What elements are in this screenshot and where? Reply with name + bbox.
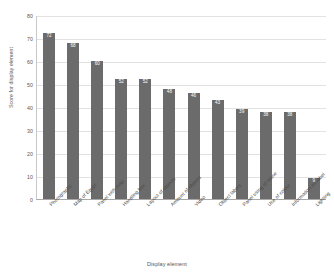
- y-axis-tick-label: 70: [27, 36, 33, 42]
- chart-page: Score for display element 01020304050607…: [0, 0, 334, 280]
- y-axis-tick-label: 50: [27, 82, 33, 88]
- x-axis-title: Display element: [0, 261, 334, 267]
- bar-slot: 39: [230, 16, 254, 199]
- bar-value-label: 39: [239, 110, 244, 115]
- y-axis-tick-label: 30: [27, 128, 33, 134]
- bar-series: 72686052524846433938389: [37, 16, 326, 199]
- bar-slot: 60: [85, 16, 109, 199]
- y-axis-tick-label: 80: [27, 13, 33, 19]
- y-axis-tick-label: 60: [27, 59, 33, 65]
- bar-value-label: 52: [119, 80, 124, 85]
- bar-slot: 38: [278, 16, 302, 199]
- plot-area: 01020304050607080 7268605252484643393838…: [36, 16, 326, 200]
- bar[interactable]: 68: [67, 43, 79, 199]
- bar-value-label: 52: [143, 80, 148, 85]
- y-axis-title: Score for display element: [8, 47, 14, 108]
- bar-value-label: 43: [215, 101, 220, 106]
- x-tick-slot: Video: [181, 202, 205, 260]
- y-axis-tick-label: 10: [27, 174, 33, 180]
- bar-value-label: 46: [191, 94, 196, 99]
- bar-slot: 43: [206, 16, 230, 199]
- x-tick-slot: Amount of objects: [157, 202, 181, 260]
- x-tick-slot: Panel with map: [84, 202, 108, 260]
- bar-value-label: 38: [263, 113, 268, 118]
- bar-slot: 72: [37, 16, 61, 199]
- bar[interactable]: 60: [91, 61, 103, 199]
- bar-slot: 46: [181, 16, 205, 199]
- bar-slot: 48: [157, 16, 181, 199]
- bar-slot: 68: [61, 16, 85, 199]
- bar-value-label: 48: [167, 90, 172, 95]
- x-axis-ticks: PhotographsMap of EgyptPanel with mapHan…: [36, 202, 326, 260]
- x-tick-slot: Photographs: [36, 202, 60, 260]
- x-tick-slot: Use of colour: [254, 202, 278, 260]
- x-tick-slot: Object labels: [205, 202, 229, 260]
- bar-value-label: 68: [71, 44, 76, 49]
- bar-value-label: 38: [287, 113, 292, 118]
- x-tick-slot: Layout of objects: [133, 202, 157, 260]
- y-axis-tick-label: 40: [27, 105, 33, 111]
- bar[interactable]: 43: [212, 100, 224, 199]
- x-tick-slot: Handling box: [109, 202, 133, 260]
- x-tick-slot: Information on label: [278, 202, 302, 260]
- bar-slot: 52: [109, 16, 133, 199]
- bar-value-label: 72: [46, 34, 51, 39]
- bar-value-label: 60: [95, 62, 100, 67]
- x-tick-slot: Panel using of stone: [229, 202, 253, 260]
- bar[interactable]: 72: [43, 33, 55, 199]
- x-tick-slot: Lighting: [302, 202, 326, 260]
- x-tick-slot: Map of Egypt: [60, 202, 84, 260]
- y-axis-tick-label: 20: [27, 151, 33, 157]
- bar-slot: 52: [133, 16, 157, 199]
- y-axis-tick-label: 0: [30, 197, 33, 203]
